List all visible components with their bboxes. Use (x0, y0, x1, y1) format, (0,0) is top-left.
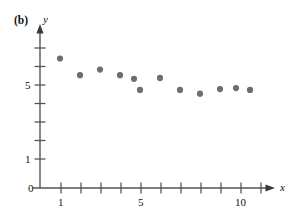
x-tick-label-5: 5 (138, 197, 144, 208)
data-point (57, 55, 63, 61)
x-tick-label-10: 10 (235, 197, 246, 208)
data-points (57, 55, 253, 96)
data-point (131, 76, 137, 82)
y-tick-label-1: 1 (25, 154, 31, 165)
x-axis-label: x (280, 182, 285, 193)
data-point (197, 91, 203, 97)
figure-panel: (b) y x 0 5 1 1 5 10 (0, 0, 297, 223)
y-axis-label: y (43, 14, 48, 25)
data-point (157, 75, 163, 81)
x-tick-label-1: 1 (58, 197, 64, 208)
scatter-plot (0, 0, 297, 223)
data-point (177, 87, 183, 93)
data-point (247, 87, 253, 93)
y-axis-arrowhead (36, 24, 43, 34)
y-tick-label-5: 5 (25, 80, 31, 91)
origin-tick-label: 0 (28, 183, 34, 194)
data-point (217, 86, 223, 92)
data-point (117, 72, 123, 78)
data-point (137, 87, 143, 93)
panel-label: (b) (14, 15, 28, 27)
data-point (77, 72, 83, 78)
x-axis-arrowhead (266, 184, 276, 191)
data-point (233, 85, 239, 91)
data-point (97, 67, 103, 73)
